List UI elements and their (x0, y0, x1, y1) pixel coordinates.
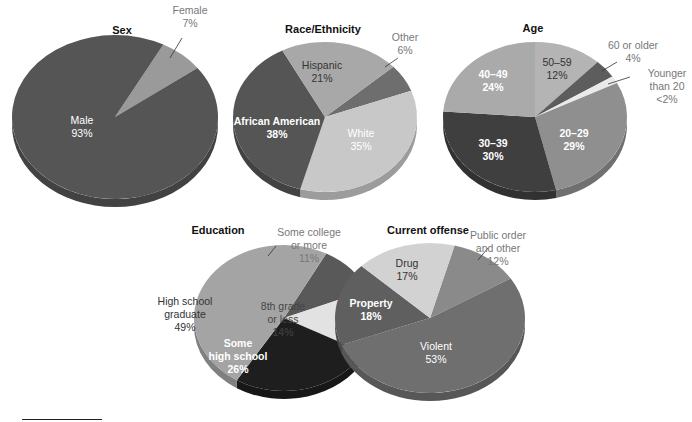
slice-name: Some (209, 337, 268, 350)
slice-name: Female (172, 4, 207, 17)
slice-percent: 4% (608, 52, 658, 65)
slice-label-60-or-older: 60 or older4% (608, 39, 658, 65)
slice-name: African American (234, 115, 321, 128)
slice-label-property: Property18% (349, 297, 392, 323)
slice-name: Public order (470, 229, 526, 242)
slice-name: Drug (396, 257, 419, 270)
slice-name: than 20 (648, 80, 687, 93)
slice-percent: 53% (420, 353, 452, 366)
chart-title-age: Age (523, 22, 544, 34)
slice-percent: 11% (277, 252, 341, 265)
slice-label-female: Female7% (172, 4, 207, 30)
slice-name: White (348, 127, 375, 140)
slice-label-30-39: 30–3930% (478, 137, 507, 163)
slice-percent: 7% (172, 17, 207, 30)
slice-percent: 38% (234, 128, 321, 141)
slice-name: Hispanic (302, 59, 342, 72)
chart-title-education: Education (191, 224, 244, 236)
slice-label-african-american: African American38% (234, 115, 321, 141)
slice-percent: 18% (349, 310, 392, 323)
slice-percent: 21% (302, 72, 342, 85)
slice-percent: 26% (209, 363, 268, 376)
slice-label-white: White35% (348, 127, 375, 153)
slice-label-public-order-and-other: Public orderand other12% (470, 229, 526, 268)
slice-name: High school (158, 295, 213, 308)
slice-name: or less (261, 313, 305, 326)
footnote-divider (22, 419, 102, 420)
slice-percent: 93% (71, 127, 94, 140)
slice-label-violent: Violent53% (420, 340, 452, 366)
slice-percent: 12% (542, 69, 571, 82)
slice-name: 60 or older (608, 39, 658, 52)
slice-name: Violent (420, 340, 452, 353)
slice-name: and other (470, 242, 526, 255)
slice-name: Younger (648, 67, 687, 80)
slice-percent: 30% (478, 150, 507, 163)
chart-title-race-ethnicity: Race/Ethnicity (285, 23, 361, 35)
slice-label-8th-grade-or-less: 8th gradeor less14% (261, 300, 305, 339)
pie-age (443, 42, 627, 200)
chart-title-current-offense: Current offense (387, 224, 469, 236)
slice-percent: 6% (392, 44, 418, 57)
slice-name: or more (277, 239, 341, 252)
slice-label-drug: Drug17% (396, 257, 419, 283)
slice-name: 30–39 (478, 137, 507, 150)
slice-name: Some college (277, 226, 341, 239)
slice-percent: 24% (478, 81, 507, 94)
slice-name: 8th grade (261, 300, 305, 313)
slice-label-some-high-school: Somehigh school26% (209, 337, 268, 376)
slice-name: Male (71, 114, 94, 127)
slice-label-50-59: 50–5912% (542, 56, 571, 82)
slice-label-other: Other6% (392, 31, 418, 57)
slice-label-20-29: 20–2929% (559, 127, 588, 153)
slice-percent: 35% (348, 140, 375, 153)
slice-label-younger-than-20: Youngerthan 20<2% (648, 67, 687, 106)
slice-label-high-school-graduate: High schoolgraduate49% (158, 295, 213, 334)
slice-percent: 14% (261, 326, 305, 339)
slice-name: graduate (158, 308, 213, 321)
slice-label-male: Male93% (71, 114, 94, 140)
pie-chart-canvas (0, 0, 692, 422)
slice-label-hispanic: Hispanic21% (302, 59, 342, 85)
slice-percent: <2% (648, 93, 687, 106)
slice-percent: 12% (470, 255, 526, 268)
pie-sex (12, 35, 218, 207)
slice-label-40-49: 40–4924% (478, 68, 507, 94)
chart-title-sex: Sex (112, 24, 132, 36)
slice-name: 20–29 (559, 127, 588, 140)
slice-label-some-college-or-more: Some collegeor more11% (277, 226, 341, 265)
slice-percent: 49% (158, 321, 213, 334)
slice-percent: 17% (396, 270, 419, 283)
slice-percent: 29% (559, 140, 588, 153)
slice-name: Property (349, 297, 392, 310)
slice-name: Other (392, 31, 418, 44)
slice-name: 50–59 (542, 56, 571, 69)
slice-name: 40–49 (478, 68, 507, 81)
slice-name: high school (209, 350, 268, 363)
